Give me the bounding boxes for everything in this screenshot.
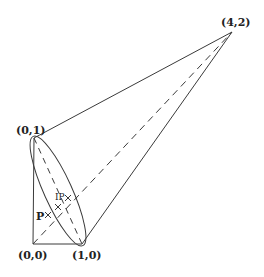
label-apex: (4,2)	[221, 16, 251, 29]
label-point-p: P	[36, 210, 44, 223]
cone-edge-top	[34, 32, 232, 138]
label-bottom-right: (1,0)	[72, 249, 102, 262]
edge-left	[33, 138, 34, 244]
cone-edge-bottom	[82, 32, 232, 244]
label-top-left: (0,1)	[16, 124, 46, 137]
label-point-ip: IP	[55, 192, 65, 202]
cone-projection-diagram: (4,2) (0,1) (0,0) (1,0) P IP	[0, 0, 264, 277]
label-origin: (0,0)	[18, 249, 48, 262]
dashed-origin-apex	[33, 32, 232, 244]
dashed-diagonal	[34, 138, 82, 244]
